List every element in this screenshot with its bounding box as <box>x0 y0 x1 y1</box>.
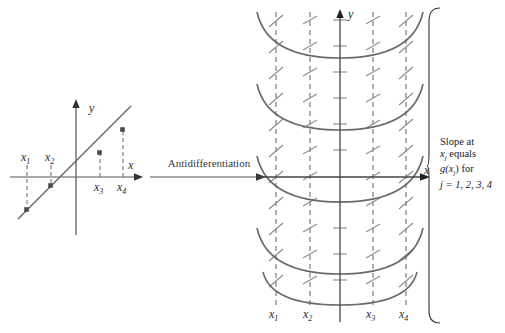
left-tick-label-x4: x4 <box>117 180 126 196</box>
note-line-4: j = 1, 2, 3, 4 <box>440 179 492 190</box>
note-line-3-rest: ) for <box>455 163 473 174</box>
right-panel-graph <box>255 0 440 333</box>
right-y-axis-label: y <box>348 7 353 22</box>
right-tick-label-x1: x1 <box>269 307 278 323</box>
antidifferentiation-arrow-label: Antidifferentiation <box>150 157 268 169</box>
slope-field <box>269 15 413 287</box>
left-tick-label-x1: x1 <box>21 150 30 166</box>
right-dashed-lines <box>276 12 406 305</box>
right-y-axis <box>336 9 343 322</box>
right-tick-label-x4: x4 <box>399 307 408 323</box>
left-dashed-lines <box>27 130 123 210</box>
left-line-g <box>18 106 131 219</box>
note-line-1: Slope at <box>440 136 474 147</box>
right-tick-label-x2: x2 <box>303 307 312 323</box>
note-line-3: g(x <box>440 163 453 174</box>
left-y-axis-label: y <box>89 101 94 116</box>
left-tick-label-x3: x3 <box>94 180 103 196</box>
left-sample-points <box>24 127 125 212</box>
note-line-2-rest: equals <box>447 148 476 159</box>
left-panel-graph <box>0 95 160 325</box>
slope-annotation: Slope at xj equals g(xj) for j = 1, 2, 3… <box>440 136 505 191</box>
left-y-axis <box>72 99 79 235</box>
left-x-axis-label: x <box>128 158 133 173</box>
left-tick-label-x2: x2 <box>45 150 54 166</box>
figure-antidifferentiation: y x x1 x2 x3 x4 Antidifferentiation <box>0 0 505 333</box>
right-x-axis <box>257 173 430 180</box>
right-tick-label-x3: x3 <box>366 307 375 323</box>
